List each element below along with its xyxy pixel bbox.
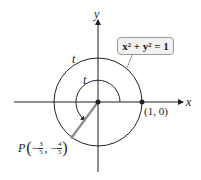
start-point-label: (1, 0) (144, 106, 168, 117)
equation-leader-line (127, 53, 133, 68)
comma: , (44, 142, 47, 154)
outer-arc-label: t (72, 53, 75, 65)
terminal-point-name: P (18, 142, 25, 154)
x-fraction: 3 5 (38, 141, 43, 156)
terminal-point-label: P ( − 3 5 , − 4 5 ) (18, 140, 68, 156)
close-paren: ) (62, 140, 67, 156)
circle-equation-label: x² + y² = 1 (117, 37, 174, 55)
x-axis-label: x (186, 96, 191, 108)
inner-arc-label: t (83, 74, 86, 86)
start-point (140, 100, 145, 105)
x-sign: − (32, 142, 39, 154)
y-sign: − (50, 142, 57, 154)
y-axis-label: y (94, 8, 99, 20)
radius-segment (72, 102, 98, 137)
origin-point (96, 100, 101, 105)
unit-circle-diagram: y x x² + y² = 1 t t (1, 0) P ( − 3 5 , −… (0, 0, 201, 180)
terminal-point (70, 135, 74, 139)
